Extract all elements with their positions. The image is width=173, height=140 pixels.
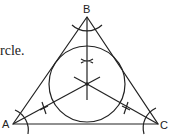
bisector-a-ext xyxy=(87,77,100,84)
label-b: B xyxy=(83,3,90,15)
label-a: A xyxy=(2,118,10,130)
bisector-c-ext xyxy=(74,77,87,84)
arc-c xyxy=(143,108,156,134)
incenter-point xyxy=(85,82,89,86)
triangle-abc xyxy=(13,17,158,124)
incircle-diagram: B A C xyxy=(0,0,173,140)
mark-a xyxy=(40,102,48,114)
bisector-c xyxy=(87,84,158,124)
label-c: C xyxy=(160,119,168,131)
